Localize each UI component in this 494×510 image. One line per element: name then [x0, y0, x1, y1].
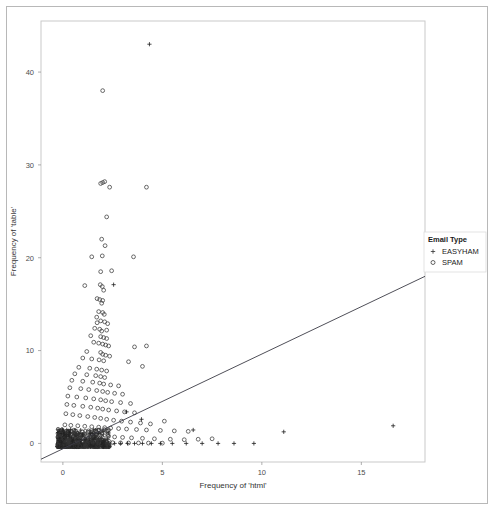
scatter-plot-figure: 051015010203040Frequency of 'html'Freque…: [0, 0, 494, 510]
y-tick-label: 20: [26, 254, 34, 263]
y-tick-label: 40: [26, 68, 34, 77]
y-tick-label: 30: [26, 161, 34, 170]
legend-label: EASYHAM: [442, 247, 479, 256]
y-tick-label: 0: [30, 439, 34, 448]
plot-panel: [41, 21, 425, 462]
x-axis-title: Frequency of 'html': [199, 481, 267, 490]
y-axis-title: Frequency of 'table': [9, 206, 18, 276]
plot-canvas: 051015010203040Frequency of 'html'Freque…: [0, 0, 494, 510]
x-tick-label: 0: [61, 468, 65, 477]
legend-label: SPAM: [442, 258, 463, 267]
legend-title: Email Type: [428, 235, 467, 244]
y-tick-label: 10: [26, 346, 34, 355]
panel-background: [41, 21, 425, 462]
x-tick-label: 15: [357, 468, 365, 477]
x-tick-label: 5: [160, 468, 164, 477]
x-tick-label: 10: [258, 468, 266, 477]
legend: Email TypeEASYHAMSPAM: [424, 232, 486, 272]
